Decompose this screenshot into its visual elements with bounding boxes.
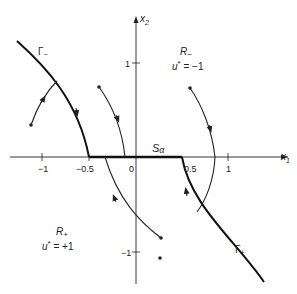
region-r-plus-control: u* = +1 xyxy=(42,239,74,252)
x2-axis-label: x2 xyxy=(139,13,149,26)
region-r-minus-control: u* = −1 xyxy=(172,59,204,72)
gamma-minus-curve xyxy=(17,41,89,157)
trajectory-2 xyxy=(99,87,125,157)
region-r-plus-label: R+ xyxy=(56,226,68,239)
phase-plane-diagram: −1 −0.5 0 0.5 1 1 −1 x2 x1 R− u* = −1 R+… xyxy=(0,0,297,294)
x2-axis xyxy=(132,16,140,284)
gamma-minus-label: Γ− xyxy=(38,46,48,58)
x-tick-neg05: −0.5 xyxy=(76,164,94,174)
x1-axis-label: x1 xyxy=(280,151,290,164)
gamma-plus-curve xyxy=(182,157,264,282)
y-tick-neg1: −1 xyxy=(121,248,131,258)
x-tick-0: 0 xyxy=(129,164,134,174)
x-tick-neg1: −1 xyxy=(38,164,48,174)
trajectory-3 xyxy=(190,88,215,157)
gamma-plus-label: Γ+ xyxy=(235,244,245,256)
s-alpha-label: Sα xyxy=(152,142,165,155)
y-tick-1: 1 xyxy=(125,59,130,69)
x2-axis-arrow-icon xyxy=(134,16,139,23)
x-tick-05: 0.5 xyxy=(184,164,197,174)
region-r-minus-label: R− xyxy=(180,46,192,59)
x-tick-1: 1 xyxy=(226,164,231,174)
trajectory-1 xyxy=(31,81,57,125)
